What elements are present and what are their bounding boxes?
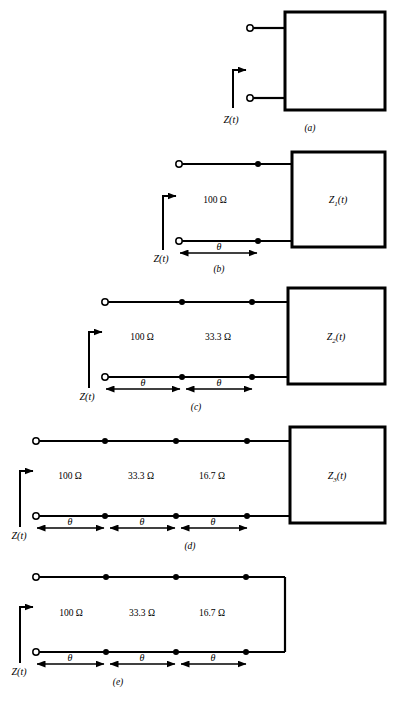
panel-a-terminal-top: [247, 25, 253, 31]
panel-a-caption: (a): [304, 123, 315, 134]
panel-e-node-bottom-3: [243, 649, 249, 655]
panel-b-input-impedance-arrow: [163, 196, 176, 250]
panel-a-input-impedance-label: Z(t): [224, 114, 240, 126]
panel-a-input-impedance-arrow: [233, 70, 246, 108]
panel-d-section-impedance-1: 100 Ω: [58, 471, 82, 481]
panel-e-input-impedance-label: Z(t): [12, 666, 28, 678]
panel-c-node-top-1: [179, 299, 185, 305]
panel-b-section-impedance-1: 100 Ω: [203, 195, 227, 205]
panel-e-node-bottom-2: [173, 649, 179, 655]
panel-c-node-bottom-1: [179, 374, 185, 380]
panel-e: 100 Ω 33.3 Ω 16.7 Ω Z(t) θ θ θ (e): [12, 574, 286, 688]
panel-c-dimension-label-2: θ: [217, 377, 222, 388]
panel-c-terminal-bottom: [102, 374, 108, 380]
panel-b-terminal-top: [176, 161, 182, 167]
panel-d-node-top-3: [244, 438, 250, 444]
panel-e-section-impedance-1: 100 Ω: [59, 608, 83, 618]
panel-d-terminal-bottom: [33, 513, 39, 519]
panel-d-input-impedance-label: Z(t): [12, 530, 28, 542]
panel-e-section-impedance-3: 16.7 Ω: [199, 608, 225, 618]
panel-d-dimension-label-3: θ: [211, 516, 216, 527]
panel-d-dimension-label-1: θ: [68, 516, 73, 527]
panel-d: Z3(t) 100 Ω 33.3 Ω 16.7 Ω Z(t) θ θ θ (d): [12, 427, 386, 552]
panel-b-dimension-label-1: θ: [217, 241, 222, 252]
panel-b-node-top: [255, 161, 261, 167]
panel-a: Z(t) (a): [224, 12, 386, 134]
panel-b-input-impedance-label: Z(t): [154, 253, 170, 265]
panel-c-terminal-top: [102, 299, 108, 305]
panel-e-node-bottom-1: [103, 649, 109, 655]
panel-d-terminal-top: [33, 438, 39, 444]
panel-c-section-impedance-1: 100 Ω: [130, 332, 154, 342]
panel-c-section-impedance-2: 33.3 Ω: [205, 332, 231, 342]
panel-d-section-impedance-3: 16.7 Ω: [199, 471, 225, 481]
panel-d-dimension-label-2: θ: [140, 516, 145, 527]
panel-c-input-impedance-arrow: [89, 332, 102, 388]
panel-e-terminal-top: [33, 574, 39, 580]
panel-e-node-top-2: [173, 574, 179, 580]
panel-e-node-top-3: [243, 574, 249, 580]
panel-c-caption: (c): [191, 402, 202, 413]
panel-a-terminal-bottom: [247, 95, 253, 101]
panel-b: Z1(t) 100 Ω Z(t) θ (b): [154, 152, 386, 275]
panel-e-dimension-label-1: θ: [68, 652, 73, 663]
panel-a-load-box: [285, 12, 385, 110]
panel-d-node-bottom-1: [102, 513, 108, 519]
panel-e-terminal-bottom: [33, 649, 39, 655]
panel-e-node-top-1: [103, 574, 109, 580]
panel-d-section-impedance-2: 33.3 Ω: [128, 471, 154, 481]
panel-c-node-top-2: [249, 299, 255, 305]
panel-e-section-impedance-2: 33.3 Ω: [129, 608, 155, 618]
panel-d-input-impedance-arrow: [20, 471, 33, 527]
panel-d-node-top-1: [102, 438, 108, 444]
figure-transmission-line-cascade: Z(t) (a) Z1(t) 100 Ω Z(t) θ (b) Z2(t): [0, 0, 396, 702]
panel-b-caption: (b): [213, 264, 224, 275]
panel-b-terminal-bottom: [176, 238, 182, 244]
panel-d-caption: (d): [184, 541, 195, 552]
panel-c-dimension-label-1: θ: [141, 377, 146, 388]
panel-e-dimension-label-2: θ: [140, 652, 145, 663]
panel-e-caption: (e): [113, 677, 124, 688]
panel-c: Z2(t) 100 Ω 33.3 Ω Z(t) θ θ (c): [80, 288, 386, 413]
panel-e-dimension-label-3: θ: [211, 652, 216, 663]
panel-d-node-top-2: [173, 438, 179, 444]
panel-c-input-impedance-label: Z(t): [80, 391, 96, 403]
panel-d-node-bottom-2: [173, 513, 179, 519]
panel-c-node-bottom-2: [249, 374, 255, 380]
panel-d-node-bottom-3: [244, 513, 250, 519]
panel-e-input-impedance-arrow: [20, 607, 33, 663]
panel-b-node-bottom: [255, 238, 261, 244]
